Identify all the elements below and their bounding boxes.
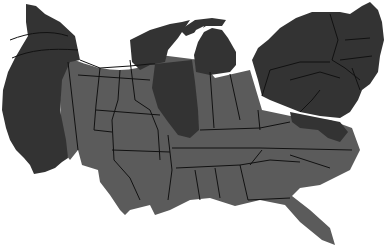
region-northeast: [252, 2, 384, 118]
us-cartogram-map: [0, 0, 388, 246]
lake-huron: [228, 22, 240, 42]
region-michigan: [194, 28, 236, 75]
